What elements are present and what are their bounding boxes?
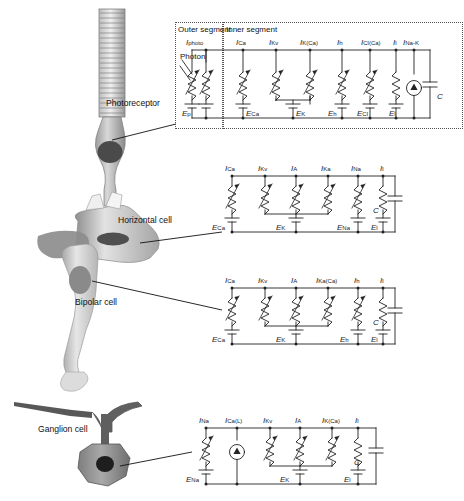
retina-cell-illustration	[0, 0, 200, 501]
figure-canvas: Photoreceptor Horizontal cell Bipolar ce…	[0, 0, 464, 501]
g-emf-ena: ENa	[186, 475, 199, 484]
g-current-a: IA	[295, 416, 301, 425]
h-current-ca: ICa	[225, 164, 235, 173]
emf-label-el: El	[389, 109, 396, 118]
b-emf-eca: ECa	[212, 335, 225, 344]
current-label-photo: Iphoto	[186, 38, 203, 47]
g-emf-el: El	[344, 475, 351, 484]
photoreceptor-soma	[95, 117, 125, 206]
b-current-kaca: IKa(Ca)	[316, 276, 337, 285]
g-current-l: Il	[355, 416, 359, 425]
current-label-clca: ICl(Ca)	[361, 38, 381, 47]
b-emf-el: El	[371, 335, 378, 344]
ganglion-cell-body	[14, 402, 142, 486]
b-current-kv: IKv	[258, 276, 267, 285]
b-current-ca: ICa	[225, 276, 235, 285]
current-label-kv: IKv	[269, 38, 278, 47]
g-current-na: INa	[199, 416, 209, 425]
b-emf-ek: EK	[276, 335, 285, 344]
current-label-leak: Il	[393, 38, 397, 47]
g-current-kca: IK(Ca)	[322, 416, 340, 425]
h-emf-el: El	[371, 223, 378, 232]
cap-label-c3: C	[373, 318, 379, 327]
emf-label-ek: EK	[296, 109, 305, 118]
current-label-h: Ih	[337, 38, 343, 47]
h-current-kv: IKv	[258, 164, 267, 173]
outer-segment-label: Outer segment	[178, 25, 231, 34]
b-emf-eh: Eh	[340, 335, 349, 344]
cell-label-horizontal: Horizontal cell	[118, 215, 172, 225]
h-emf-eca: ECa	[212, 223, 225, 232]
photon-label: Photon	[180, 52, 205, 61]
cell-label-ganglion: Ganglion cell	[38, 424, 88, 434]
h-current-l: Il	[380, 164, 384, 173]
cell-label-bipolar: Bipolar cell	[75, 297, 117, 307]
emf-label-ep: Ep	[182, 109, 191, 118]
inner-segment-label: Inner segment	[226, 25, 277, 34]
h-current-na: INa	[351, 164, 361, 173]
emf-label-eca: ECa	[246, 109, 259, 118]
h-current-ka: IKa	[321, 164, 331, 173]
emf-label-ecl: ECl	[357, 109, 368, 118]
b-current-l: Il	[380, 276, 384, 285]
cap-label-c1: C	[437, 92, 443, 101]
cell-label-photoreceptor: Photoreceptor	[106, 98, 160, 108]
g-current-cal: ICa(L)	[225, 416, 242, 425]
g-emf-ek: EK	[280, 475, 289, 484]
h-emf-ek: EK	[276, 223, 285, 232]
horizontal-cell-body	[37, 192, 159, 263]
current-label-ca: ICa	[236, 38, 246, 47]
cap-label-c4: C	[354, 458, 360, 467]
b-current-h: Ih	[354, 276, 360, 285]
g-current-kv: IKv	[263, 416, 272, 425]
b-current-a: IA	[291, 276, 297, 285]
bipolar-cell-body	[60, 244, 98, 391]
h-emf-ena: ENa	[337, 223, 350, 232]
current-label-kca: IK(Ca)	[300, 38, 318, 47]
current-label-nak: INa-K	[403, 38, 419, 47]
cap-label-c2: C	[373, 206, 379, 215]
h-current-a: IA	[291, 164, 297, 173]
emf-label-eh: Eh	[328, 109, 337, 118]
